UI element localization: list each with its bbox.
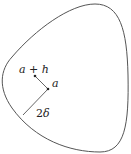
label-a-plus-h: a + h — [19, 63, 49, 76]
increment-h-segment — [35, 76, 48, 89]
diagram-canvas: a + h a 2δ — [0, 0, 131, 154]
label-2delta-num: 2 — [36, 107, 43, 120]
region-boundary — [2, 4, 128, 152]
label-2delta: 2δ — [36, 107, 50, 120]
label-2delta-sym: δ — [43, 107, 50, 120]
point-a — [47, 88, 50, 91]
label-a: a — [52, 77, 59, 90]
